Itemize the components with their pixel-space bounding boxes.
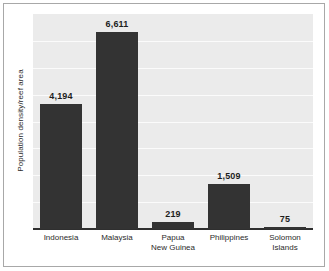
x-label-philippines-line1: Philippines	[210, 233, 249, 242]
bar-value-indonesia: 4,194	[49, 91, 73, 101]
bar-value-malaysia: 6,611	[105, 19, 128, 29]
bar-papua-new-guinea[interactable]	[152, 222, 194, 229]
bar-slot-indonesia: 4,194	[33, 14, 89, 229]
bar-indonesia[interactable]	[40, 104, 82, 229]
x-label-solomon-islands-line1: Solomon	[269, 233, 301, 242]
bar-slot-philippines: 1,509	[201, 14, 257, 229]
x-label-papua-new-guinea-line2: New Guinea	[145, 243, 201, 253]
bar-slot-malaysia: 6,611	[89, 14, 145, 229]
x-label-philippines: Philippines	[201, 233, 257, 243]
x-label-papua-new-guinea-line1: Papua	[161, 233, 184, 242]
x-label-papua-new-guinea: Papua New Guinea	[145, 233, 201, 253]
bar-value-solomon-islands: 75	[280, 214, 290, 224]
bar-malaysia[interactable]	[96, 32, 138, 229]
x-label-solomon-islands: Solomon Islands	[257, 233, 313, 253]
chart-figure: Population density/reef area 4,194 6,611…	[0, 0, 329, 271]
bar-value-philippines: 1,509	[217, 171, 241, 181]
x-label-malaysia-line1: Malaysia	[101, 233, 133, 242]
x-axis-labels: Indonesia Malaysia Papua New Guinea Phil…	[33, 233, 313, 267]
x-label-solomon-islands-line2: Islands	[257, 243, 313, 253]
x-label-indonesia: Indonesia	[33, 233, 89, 243]
bar-slot-solomon-islands: 75	[257, 14, 313, 229]
bar-solomon-islands[interactable]	[264, 227, 306, 229]
y-axis-title: Population density/reef area	[13, 55, 27, 185]
bars-group: 4,194 6,611 219 1,509 75	[33, 14, 313, 229]
bar-philippines[interactable]	[208, 184, 250, 229]
bar-value-papua-new-guinea: 219	[165, 209, 181, 219]
bar-slot-papua-new-guinea: 219	[145, 14, 201, 229]
y-axis-title-text: Population density/reef area	[16, 69, 25, 171]
x-label-malaysia: Malaysia	[89, 233, 145, 243]
x-label-indonesia-line1: Indonesia	[44, 233, 79, 242]
